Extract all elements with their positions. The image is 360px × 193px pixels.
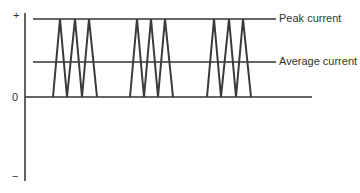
pulse-group-3 [207,19,251,97]
average-current-label: Average current [279,56,357,67]
minus-axis-label: − [12,171,18,182]
pulse-current-diagram [0,0,360,193]
pulse-group-2 [130,19,173,97]
pulse-group-1 [53,19,97,97]
plus-axis-label: + [13,10,19,21]
peak-current-label: Peak current [279,13,341,24]
zero-axis-label: 0 [12,92,18,103]
